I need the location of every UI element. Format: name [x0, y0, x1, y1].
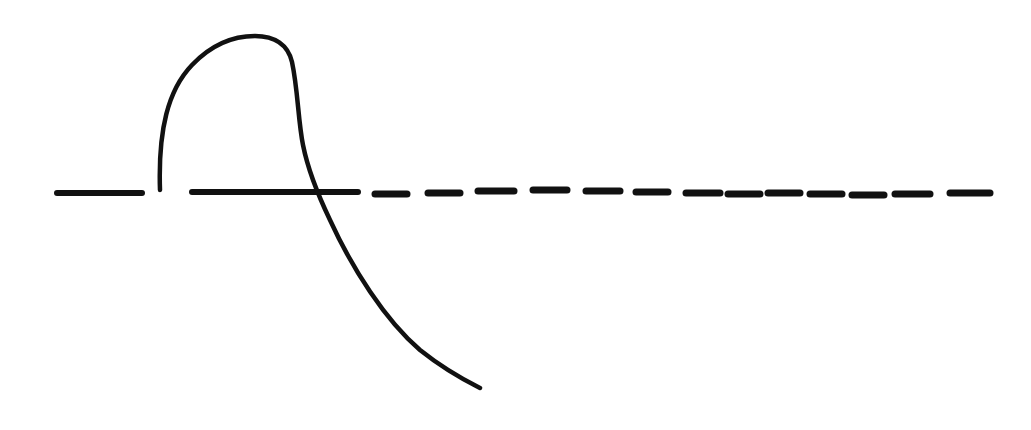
curve-stroke	[160, 36, 480, 388]
sketch-canvas	[0, 0, 1031, 430]
dashed-baseline	[57, 190, 990, 195]
sketch-drawing	[0, 0, 1031, 430]
